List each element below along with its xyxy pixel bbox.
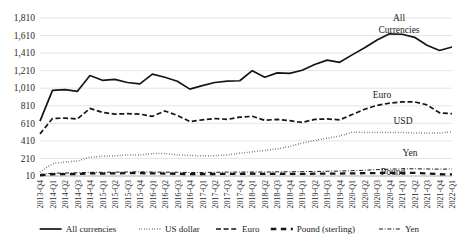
legend-label-pound-sterling: Pound (sterling)	[297, 224, 355, 234]
x-axis-tick-label: 2017-Q2	[211, 180, 220, 208]
x-axis-tick-label: 2020-Q2	[361, 180, 370, 208]
x-axis-tick-label: 2016-Q1	[149, 180, 158, 208]
x-axis-tick-label: 2021-Q4	[436, 180, 445, 208]
y-axis-tick-label: 1,210	[14, 66, 36, 76]
y-axis-tick-label: 610	[21, 119, 36, 129]
series-line-all-currencies	[40, 34, 452, 121]
y-axis-tick-label: 810	[21, 101, 36, 111]
chart-legend: All currenciesUS dollarEuroPound (sterli…	[40, 224, 420, 234]
x-axis-tick-label: 2013-Q4	[36, 180, 45, 208]
chart-container: 102104106108101,0101,2101,4101,6101,810 …	[0, 0, 458, 245]
y-axis-tick-label: 10	[26, 171, 36, 181]
x-axis-tick-label: 2014-Q1	[49, 180, 58, 208]
series-group	[40, 34, 452, 176]
x-axis-tick-label: 2014-Q3	[74, 180, 83, 208]
x-axis-tick-label: 2018-Q3	[273, 180, 282, 208]
x-axis-tick-label: 2022-Q1	[448, 180, 457, 208]
series-annotation-usd: USD	[393, 116, 412, 126]
y-axis-tick-label: 1,810	[14, 13, 36, 23]
y-axis-tick-label: 1,410	[14, 48, 36, 58]
x-axis-tick-label: 2018-Q4	[286, 180, 295, 208]
x-axis-tick-label: 2014-Q2	[61, 180, 70, 208]
y-axis-tick-label: 210	[21, 154, 36, 164]
legend-label-yen: Yen	[405, 224, 420, 234]
x-axis-tick-label: 2018-Q2	[261, 180, 270, 208]
y-axis-tick-labels: 102104106108101,0101,2101,4101,6101,810	[14, 13, 36, 181]
legend-label-us-dollar: US dollar	[165, 224, 200, 234]
series-annotation-yen: Yen	[403, 148, 418, 158]
legend-label-euro: Euro	[242, 224, 260, 234]
x-axis-tick-label: 2016-Q2	[161, 180, 170, 208]
y-axis-tick-label: 410	[21, 136, 36, 146]
x-axis-tick-label: 2019-Q2	[311, 180, 320, 208]
x-axis-tick-label: 2021-Q1	[398, 180, 407, 208]
x-axis-tick-label: 2020-Q1	[348, 180, 357, 208]
x-axis-tick-label: 2016-Q3	[174, 180, 183, 208]
x-axis-tick-label: 2020-Q4	[386, 180, 395, 208]
x-axis-tick-label: 2019-Q4	[336, 180, 345, 208]
line-chart: 102104106108101,0101,2101,4101,6101,810 …	[0, 0, 458, 245]
series-annotation-currencies: Currencies	[378, 25, 419, 35]
y-axis-tick-label: 1,010	[14, 83, 36, 93]
x-axis-tick-label: 2017-Q1	[199, 180, 208, 208]
x-axis-tick-label: 2017-Q3	[223, 180, 232, 208]
x-axis-tick-label: 2020-Q3	[373, 180, 382, 208]
x-axis-tick-label: 2015-Q3	[124, 180, 133, 208]
series-line-euro	[40, 102, 452, 134]
y-axis-tick-label: 1,610	[14, 31, 36, 41]
x-axis-tick-label: 2015-Q2	[111, 180, 120, 208]
series-annotation-euro: Euro	[373, 90, 392, 100]
x-axis-tick-label: 2016-Q4	[186, 180, 195, 208]
x-axis-tick-label: 2014-Q4	[86, 180, 95, 208]
x-axis-tick-label: 2021-Q3	[423, 180, 432, 208]
x-axis-tick-label: 2019-Q3	[323, 180, 332, 208]
series-annotation-pound: Pound	[381, 167, 406, 177]
x-axis-tick-label: 2018-Q1	[248, 180, 257, 208]
legend-label-all-currencies: All currencies	[66, 224, 117, 234]
series-annotation-all: All	[393, 13, 406, 23]
x-axis-tick-label: 2015-Q1	[99, 180, 108, 208]
x-axis-tick-label: 2015-Q4	[136, 180, 145, 208]
x-axis-tick-labels: 2013-Q42014-Q12014-Q22014-Q32014-Q42015-…	[36, 180, 457, 208]
series-line-us-dollar	[40, 132, 452, 172]
x-axis-tick-label: 2017-Q4	[236, 180, 245, 208]
x-axis-tick-label: 2021-Q2	[411, 180, 420, 208]
x-axis-tick-label: 2019-Q1	[298, 180, 307, 208]
